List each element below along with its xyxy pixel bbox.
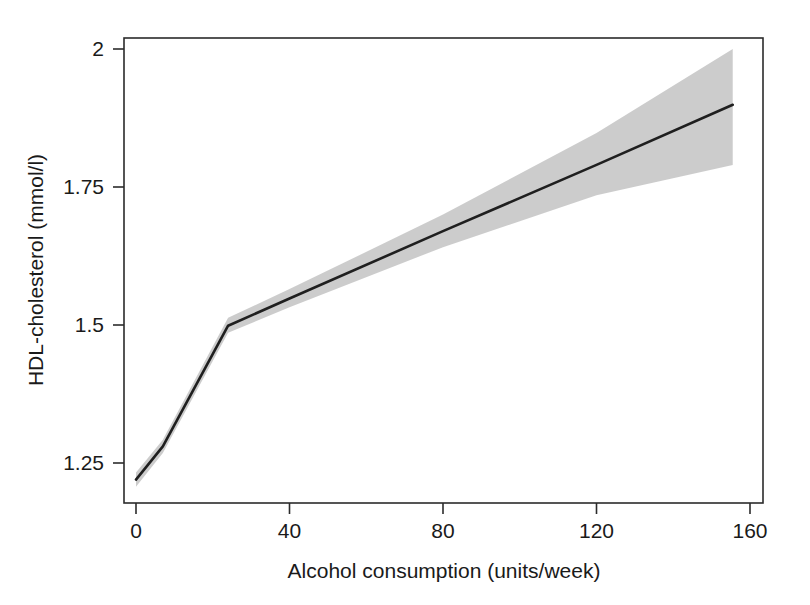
x-tick-label: 80: [431, 519, 454, 542]
x-tick-label: 120: [579, 519, 614, 542]
x-tick-label: 160: [732, 519, 767, 542]
y-tick-label: 2: [92, 37, 104, 60]
y-axis-tick-marks: [113, 49, 124, 463]
y-tick-label: 1.5: [75, 313, 104, 336]
figure-root: 04080120160 1.251.51.752 Alcohol consump…: [0, 0, 810, 605]
y-tick-label: 1.75: [63, 175, 104, 198]
x-axis-tick-marks: [136, 503, 750, 514]
x-axis-tick-labels: 04080120160: [130, 519, 767, 542]
x-tick-label: 40: [278, 519, 301, 542]
y-axis-tick-labels: 1.251.51.752: [63, 37, 104, 474]
hdl-alcohol-line-chart: 04080120160 1.251.51.752 Alcohol consump…: [0, 0, 810, 605]
x-tick-label: 0: [130, 519, 142, 542]
x-axis-title: Alcohol consumption (units/week): [288, 559, 601, 582]
y-axis-title: HDL-cholesterol (mmol/l): [24, 154, 47, 386]
y-tick-label: 1.25: [63, 451, 104, 474]
